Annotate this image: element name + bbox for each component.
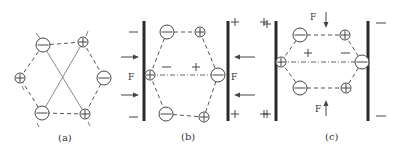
piezoelectric-diagram: (a) F F <box>0 0 399 149</box>
cation-icon <box>195 27 205 37</box>
caption-a: (a) <box>58 132 72 143</box>
cation-icon <box>145 70 155 80</box>
plus-sign <box>231 18 239 26</box>
force-arrow-icon <box>324 100 329 116</box>
force-label-left: F <box>128 72 134 82</box>
panel-c: F F (c) <box>263 12 386 142</box>
anion-icon <box>36 38 50 52</box>
cation-icon <box>341 83 351 93</box>
plus-sign <box>231 110 239 118</box>
anion-icon <box>160 25 174 39</box>
anion-icon <box>211 68 225 82</box>
anion-icon <box>293 28 307 42</box>
cation-icon <box>78 37 88 47</box>
anion-icon <box>35 106 49 120</box>
panel-a: (a) <box>15 31 111 143</box>
caption-c: (c) <box>325 131 339 142</box>
caption-b: (b) <box>181 131 195 142</box>
cation-icon <box>340 30 350 40</box>
cation-icon <box>80 109 90 119</box>
panel-b: F F (b) <box>121 18 268 142</box>
cation-icon <box>15 73 25 83</box>
anion-icon <box>159 107 173 121</box>
anion-icon <box>293 81 307 95</box>
anion-icon <box>355 55 369 69</box>
cation-icon <box>276 57 286 67</box>
cation-icon <box>199 112 209 122</box>
anion-icon <box>97 71 111 85</box>
force-label-right: F <box>231 72 237 82</box>
force-arrow-icon <box>324 12 329 28</box>
force-label-top: F <box>310 12 316 22</box>
force-label-bottom: F <box>315 104 321 114</box>
